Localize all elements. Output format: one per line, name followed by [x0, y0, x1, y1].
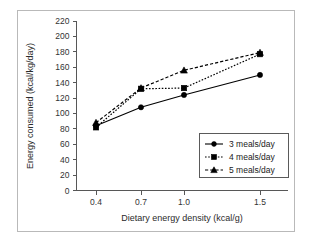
- x-tick-label: 1.5: [254, 197, 266, 207]
- y-tick-label: 20: [60, 170, 70, 180]
- series-1: [93, 72, 262, 128]
- y-tick-label: 40: [60, 155, 70, 165]
- y-tick-label: 100: [55, 108, 69, 118]
- circle-marker: [181, 92, 186, 97]
- y-axis: 020406080100120140160180200220: [55, 16, 76, 196]
- series-line: [96, 75, 260, 126]
- legend-label: 3 meals/day: [229, 139, 276, 149]
- y-tick-label: 120: [55, 93, 69, 103]
- triangle-marker: [93, 119, 100, 125]
- x-axis: 0.40.71.01.5: [77, 191, 289, 207]
- legend-label: 5 meals/day: [229, 165, 276, 175]
- chart-legend: 3 meals/day4 meals/day5 meals/day: [199, 133, 288, 177]
- x-tick-label: 0.7: [135, 197, 147, 207]
- y-tick-label: 0: [65, 186, 70, 196]
- square-marker: [212, 155, 217, 160]
- x-tick-label: 1.0: [178, 197, 190, 207]
- y-tick-label: 200: [55, 31, 69, 41]
- series-3: [93, 49, 264, 125]
- line-chart: 020406080100120140160180200220 0.40.71.0…: [0, 0, 312, 243]
- series-2: [93, 51, 262, 130]
- y-axis-ticks: 020406080100120140160180200220: [55, 16, 76, 196]
- x-tick-label: 0.4: [90, 197, 102, 207]
- circle-marker: [212, 142, 217, 147]
- circle-marker: [257, 72, 262, 77]
- series-line: [96, 54, 260, 127]
- y-tick-label: 80: [60, 124, 70, 134]
- y-tick-label: 220: [55, 16, 69, 26]
- y-tick-label: 160: [55, 62, 69, 72]
- square-marker: [181, 85, 186, 90]
- circle-marker: [138, 105, 143, 110]
- x-axis-title: Dietary energy density (kcal/g): [121, 213, 243, 223]
- x-axis-ticks: 0.40.71.01.5: [90, 191, 266, 207]
- y-tick-label: 60: [60, 139, 70, 149]
- y-tick-label: 180: [55, 47, 69, 57]
- data-series-group: [93, 49, 264, 130]
- legend-label: 4 meals/day: [229, 152, 276, 162]
- y-axis-title: Energy consumed (kcal/kg/day): [25, 43, 35, 169]
- y-tick-label: 140: [55, 78, 69, 88]
